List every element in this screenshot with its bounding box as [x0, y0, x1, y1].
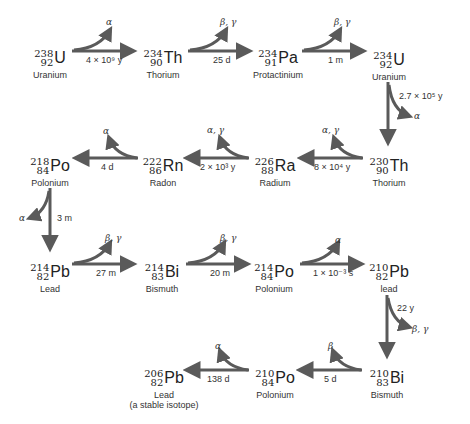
half-life-label: 27 m	[96, 268, 116, 278]
emission-label: α	[103, 126, 109, 136]
element-name: Polonium	[254, 284, 294, 294]
half-life-label: 2 × 10³ y	[200, 162, 235, 172]
emission-label: α, γ	[322, 125, 339, 135]
half-life-label: 138 d	[207, 374, 230, 384]
nuclide-u238: 23892U Uranium	[33, 43, 67, 80]
nuclide-pa234: 23491Pa Protactinium	[253, 43, 303, 80]
atomic-number: 83	[376, 378, 389, 387]
element-symbol: Pa	[278, 50, 298, 66]
element-symbol: U	[54, 50, 66, 66]
nuclide-bi214: 21483Bi Bismuth	[145, 257, 179, 294]
emission-label: α	[414, 111, 420, 121]
element-symbol: Pb	[164, 370, 184, 386]
element-name: Uranium	[33, 70, 67, 80]
atomic-number: 92	[41, 58, 54, 67]
nuclide-po218: 21884Po Polonium	[30, 151, 70, 188]
half-life-label: 3 m	[57, 213, 72, 223]
nuclide-u234: 23492U Uranium	[372, 45, 406, 82]
emission-label: β, γ	[220, 17, 236, 27]
half-life-label: 8 × 10⁴ y	[314, 162, 350, 172]
element-name: Polonium	[30, 178, 70, 188]
element-name: Lead	[30, 284, 70, 294]
atomic-number: 82	[37, 272, 50, 281]
element-name: Uranium	[372, 72, 406, 82]
element-symbol: Bi	[390, 370, 404, 386]
element-name: Radium	[255, 178, 296, 188]
nuclide-rn222: 22286Rn Radon	[143, 151, 184, 188]
element-symbol: Pb	[50, 264, 70, 280]
element-name: Thorium	[144, 70, 183, 80]
half-life-label: 25 d	[213, 55, 231, 65]
stable-note: (a stable isotope)	[129, 400, 198, 410]
half-life-label: 4 d	[101, 162, 114, 172]
emission-label: β, γ	[105, 233, 121, 243]
emission-label: α	[19, 213, 25, 223]
emission-label: α	[106, 17, 112, 27]
atomic-number: 82	[376, 272, 389, 281]
nuclide-po210: 21084Po Polonium	[255, 363, 295, 400]
atomic-number: 84	[261, 272, 274, 281]
element-name: Thorium	[370, 178, 409, 188]
element-symbol: Rn	[163, 158, 183, 174]
atomic-number: 91	[265, 58, 278, 67]
half-life-label: 4 × 10⁹ y	[86, 55, 122, 65]
nuclide-bi210: 21083Bi Bismuth	[370, 363, 404, 400]
nuclide-th234: 23490Th Thorium	[144, 43, 183, 80]
emission-label: β, γ	[334, 17, 350, 27]
atomic-number: 88	[261, 166, 274, 175]
element-name: Polonium	[255, 390, 295, 400]
element-symbol: Ra	[275, 158, 295, 174]
element-symbol: Po	[274, 264, 294, 280]
element-symbol: Th	[164, 50, 183, 66]
half-life-label: 22 y	[397, 303, 414, 313]
element-name: Bismuth	[145, 284, 179, 294]
half-life-label: 2.7 × 10⁵ y	[399, 91, 443, 101]
emission-label: α, γ	[207, 125, 224, 135]
nuclide-pb210: 21082Pb lead	[369, 257, 409, 294]
atomic-number: 84	[37, 166, 50, 175]
atomic-number: 90	[150, 58, 163, 67]
element-symbol: Th	[390, 158, 409, 174]
nuclide-pb206: 20682Pb Lead (a stable isotope)	[129, 363, 198, 410]
emission-label: β	[328, 341, 333, 351]
emission-label: β, γ	[220, 233, 236, 243]
atomic-number: 84	[262, 378, 275, 387]
emission-label: α	[335, 235, 341, 245]
nuclide-po214: 21484Po Polonium	[254, 257, 294, 294]
half-life-label: 5 d	[324, 374, 337, 384]
element-name: Protactinium	[253, 70, 303, 80]
half-life-label: 20 m	[210, 268, 230, 278]
element-symbol: Po	[275, 370, 295, 386]
emission-label: β, γ	[412, 324, 428, 334]
nuclide-ra226: 22688Ra Radium	[255, 151, 296, 188]
nuclide-th230: 23090Th Thorium	[370, 151, 409, 188]
atomic-number: 92	[380, 60, 393, 69]
element-name: Radon	[143, 178, 184, 188]
element-name: lead	[369, 284, 409, 294]
element-symbol: Po	[50, 158, 70, 174]
half-life-label: 1 m	[328, 55, 343, 65]
atomic-number: 90	[376, 166, 389, 175]
element-name: Bismuth	[370, 390, 404, 400]
atomic-number: 82	[151, 378, 164, 387]
element-symbol: U	[393, 52, 405, 68]
half-life-label: 1 × 10⁻³ s	[313, 268, 353, 278]
element-name: Lead	[129, 390, 198, 400]
emission-label: α	[215, 341, 221, 351]
element-symbol: Pb	[389, 264, 409, 280]
element-symbol: Bi	[165, 264, 179, 280]
atomic-number: 86	[149, 166, 162, 175]
nuclide-pb214: 21482Pb Lead	[30, 257, 70, 294]
atomic-number: 83	[151, 272, 164, 281]
